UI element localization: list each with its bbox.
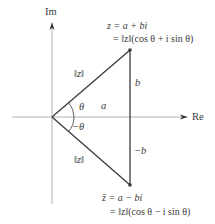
imag-part-upper-label: b	[135, 78, 140, 89]
theta-label: θ	[79, 102, 84, 113]
z-conjugate-definition: z̄ = a − bi	[102, 193, 142, 203]
imag-part-lower-label: −b	[134, 146, 146, 157]
imaginary-axis-label: Im	[45, 7, 57, 18]
upper-modulus-segment	[52, 50, 130, 117]
z-point	[128, 48, 132, 52]
z-definition: z = a + bi	[107, 21, 147, 31]
z-conjugate-polar-form: = ‖z‖(cos θ − i sin θ)	[110, 207, 190, 217]
real-axis-label: Re	[192, 112, 204, 123]
neg-theta-label: −θ	[72, 122, 84, 133]
theta-arc	[69, 103, 74, 117]
real-part-label: a	[101, 101, 106, 112]
imaginary-axis-arrow-icon	[50, 22, 55, 30]
complex-plane-diagram: Im Re z = a + bi = ‖z‖(cos θ + i sin θ) …	[0, 0, 215, 224]
lower-modulus-segment	[52, 117, 130, 185]
upper-modulus-label: ‖z‖	[74, 69, 84, 80]
lower-modulus-label: ‖z‖	[74, 155, 84, 166]
z-polar-form: = ‖z‖(cos θ + i sin θ)	[113, 34, 193, 44]
z-conjugate-point	[128, 183, 132, 187]
